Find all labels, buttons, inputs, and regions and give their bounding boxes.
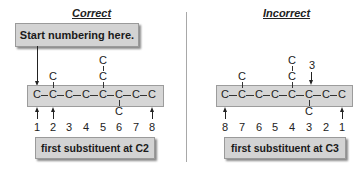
substituent-atom: C [114,106,124,117]
bond [229,95,237,96]
first-substituent-callout-incorrect: first substituent at C3 [224,137,346,159]
bond [90,95,98,96]
substituent-atom: C [287,71,297,82]
position-number: 4 [287,122,297,133]
position-number: 3 [304,122,314,133]
bond [279,95,287,96]
bond [41,95,48,96]
first-substituent-callout-correct: first substituent at C2 [35,137,155,159]
arrow-line [225,111,226,119]
bond [313,95,321,96]
substituent-atom: C [287,55,297,66]
first-substituent-label: first substituent at C2 [41,142,149,154]
panel-divider [186,12,187,162]
start-numbering-label: Start numbering here. [20,29,134,41]
bond [53,82,54,88]
heading-incorrect: Incorrect [263,7,310,19]
arrow-line [152,111,153,119]
bond [330,95,337,96]
position-number: 6 [114,122,124,133]
substituent-atom: C [98,71,108,82]
arrow-line [37,111,38,119]
bond [107,95,114,96]
position-number: 2 [321,122,331,133]
bond [296,95,304,96]
position-number: 1 [32,122,42,133]
position-number: 8 [147,122,157,133]
bond [123,95,131,96]
bond [246,95,254,96]
position-number: 8 [220,122,230,133]
start-arrow-line [37,46,38,83]
position-number: 5 [270,122,280,133]
bond [73,95,81,96]
bond [103,82,104,88]
position-number: 6 [254,122,264,133]
bond [140,95,147,96]
first-substituent-label: first substituent at C3 [231,142,339,154]
position-number: 4 [81,122,91,133]
bond [263,95,270,96]
substituent-atom: C [48,71,58,82]
position-number: 5 [98,122,108,133]
substituent-atom: C [304,106,314,117]
position-number: 1 [337,122,347,133]
substituent-atom: C [237,71,247,82]
position-number: 3 [64,122,74,133]
position-number: 7 [237,122,247,133]
start-numbering-callout: Start numbering here. [15,23,139,47]
position-number: 7 [131,122,141,133]
chain-atom: C [337,89,347,100]
heading-correct: Correct [72,7,111,19]
bond [242,82,243,88]
substituent-atom: C [98,55,108,66]
pointer-label: 3 [307,60,317,71]
arrow-line [53,111,54,119]
bond [292,82,293,88]
position-number: 2 [48,122,58,133]
pointer-arrow-head-icon [309,80,313,85]
bond [57,95,64,96]
chain-atom: C [147,89,157,100]
arrow-line [342,111,343,119]
